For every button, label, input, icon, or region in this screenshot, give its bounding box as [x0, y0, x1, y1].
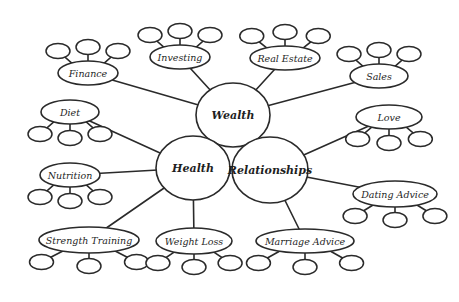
empty-leaf-node [28, 127, 52, 142]
central-nodes: WealthHealthRelationships [156, 83, 312, 203]
branch-node-diet: Diet [41, 100, 99, 124]
central-node-health: Health [156, 136, 230, 200]
branch-node-label: Finance [68, 68, 108, 79]
empty-leaf-node [146, 256, 170, 271]
branch-node-marriage-advice: Marriage Advice [256, 229, 354, 253]
branch-node-nutrition: Nutrition [40, 163, 100, 187]
empty-leaf-node [346, 132, 370, 147]
branch-node-label: Love [376, 112, 400, 123]
empty-leaf-node [28, 190, 52, 205]
empty-leaf-node [58, 194, 82, 209]
empty-leaf-node [340, 256, 364, 271]
empty-leaf-node [397, 47, 421, 62]
central-node-label: Relationships [227, 164, 312, 177]
empty-leaf-node [383, 213, 407, 228]
empty-leaf-node [408, 132, 432, 147]
branch-node-dating-advice: Dating Advice [353, 181, 437, 207]
empty-leaf-node [58, 131, 82, 146]
empty-leaf-node [423, 209, 447, 224]
empty-leaf-node [125, 255, 149, 270]
empty-leaf-node [337, 47, 361, 62]
central-node-label: Wealth [212, 109, 255, 122]
branch-node-label: Nutrition [47, 170, 93, 181]
mind-map-canvas: FinanceInvestingReal EstateSalesDietNutr… [0, 0, 459, 302]
empty-leaf-node [293, 260, 317, 275]
empty-leaf-node [182, 260, 206, 275]
central-node-wealth: Wealth [196, 83, 270, 147]
empty-leaf-node [367, 43, 391, 58]
branch-node-weight-loss: Weight Loss [156, 228, 232, 254]
empty-leaf-node [240, 29, 264, 44]
empty-leaf-node [88, 190, 112, 205]
empty-leaf-node [46, 44, 70, 59]
branch-node-label: Real Estate [256, 53, 313, 64]
branch-node-real-estate: Real Estate [250, 46, 320, 70]
branch-node-label: Sales [366, 71, 392, 82]
branch-node-strength-training: Strength Training [39, 227, 139, 253]
empty-leaf-node [273, 25, 297, 40]
branch-node-label: Dating Advice [360, 189, 429, 200]
empty-leaf-node [246, 256, 270, 271]
empty-leaf-node [138, 28, 162, 43]
empty-leaf-node [218, 256, 242, 271]
branch-node-label: Strength Training [46, 235, 133, 246]
empty-leaf-node [77, 259, 101, 274]
empty-leaf-node [106, 44, 130, 59]
empty-leaf-node [343, 209, 367, 224]
central-node-label: Health [171, 162, 214, 175]
branch-node-finance: Finance [58, 61, 118, 85]
empty-leaf-node [377, 136, 401, 151]
branch-node-label: Marriage Advice [264, 236, 346, 247]
empty-leaf-node [168, 24, 192, 39]
branch-node-label: Investing [157, 52, 203, 63]
empty-leaf-node [30, 255, 54, 270]
branch-node-investing: Investing [150, 45, 210, 69]
branch-node-label: Weight Loss [165, 236, 224, 247]
empty-leaf-node [76, 40, 100, 55]
empty-leaf-node [198, 28, 222, 43]
branch-nodes: FinanceInvestingReal EstateSalesDietNutr… [39, 45, 437, 254]
branch-node-sales: Sales [350, 64, 408, 88]
branch-node-label: Diet [59, 107, 80, 118]
empty-leaf-node [306, 29, 330, 44]
empty-leaf-node [88, 127, 112, 142]
branch-node-love: Love [356, 105, 422, 129]
